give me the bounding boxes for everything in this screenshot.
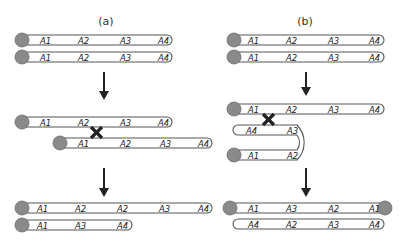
- centromere-icon: [15, 33, 29, 47]
- gene-label: A3: [327, 220, 339, 230]
- arrow-down-icon: [301, 168, 311, 197]
- panel-b-step2-chromosome1: A1 A2 A3 A4: [227, 102, 384, 116]
- gene-label: A4: [157, 53, 169, 63]
- panel-a-step3-chromosome2: A1 A3 A4: [15, 218, 132, 232]
- gene-label: A4: [368, 105, 380, 115]
- gene-label: A3: [327, 105, 339, 115]
- gene-label: A1: [247, 53, 259, 63]
- arrow-down-icon: [99, 168, 109, 197]
- gene-label: A4: [247, 220, 259, 230]
- panel-a-step3-chromosome1: A1 A2 A2 A3 A4: [15, 201, 212, 215]
- gene-label: A1: [368, 204, 380, 214]
- gene-label: A1: [39, 53, 51, 63]
- gene-label: A2: [77, 53, 89, 63]
- panel-a-step2-chromosome1: A1 A2 A3 A4: [15, 115, 172, 129]
- gene-label: A1: [247, 105, 259, 115]
- gene-label: A3: [119, 118, 131, 128]
- gene-label: A1: [36, 221, 48, 231]
- gene-label: A3: [119, 53, 131, 63]
- gene-label: A3: [286, 126, 298, 136]
- gene-label: A4: [116, 221, 128, 231]
- gene-label: A4: [368, 53, 380, 63]
- centromere-icon: [227, 148, 241, 162]
- panel-b-step3-dicentric-chromosome: A1 A3 A2 A1: [223, 201, 392, 215]
- panel-b-step3-acentric-chromosome: A4 A2 A3 A4: [233, 219, 384, 230]
- gene-label: A3: [159, 139, 171, 149]
- panel-a-step2-chromosome2-shifted: A1 A2 A3 A4: [53, 136, 212, 150]
- gene-label: A3: [285, 204, 297, 214]
- gene-label: A2: [285, 36, 297, 46]
- gene-label: A4: [197, 139, 209, 149]
- gene-label: A2: [77, 118, 89, 128]
- gene-label: A1: [39, 118, 51, 128]
- gene-label: A1: [247, 151, 259, 161]
- panel-b-step1-chromosome2: A1 A2 A3 A4: [227, 50, 384, 64]
- gene-label: A1: [39, 36, 51, 46]
- gene-label: A2: [74, 204, 86, 214]
- gene-label: A4: [157, 36, 169, 46]
- crossover-x-icon: [263, 114, 274, 125]
- gene-label: A3: [119, 36, 131, 46]
- centromere-icon: [227, 102, 241, 116]
- arrow-down-icon: [99, 72, 109, 100]
- centromere-icon: [15, 218, 29, 232]
- centromere-icon: [227, 33, 241, 47]
- gene-label: A2: [285, 220, 297, 230]
- gene-label: A1: [36, 204, 48, 214]
- gene-label: A2: [327, 204, 339, 214]
- panel-b-step2-looped-chromosome: A4 A3 A1 A2: [227, 125, 304, 162]
- centromere-icon: [227, 50, 241, 64]
- panel-a-step1-chromosome2: A1 A2 A3 A4: [15, 50, 172, 64]
- gene-label: A4: [245, 126, 257, 136]
- gene-label: A2: [285, 53, 297, 63]
- chromosome-recombination-diagram: (a) (b) A1 A2 A3 A4 A1 A2 A3 A4 A1 A2 A3…: [0, 0, 405, 247]
- gene-label: A4: [197, 204, 209, 214]
- panel-a-step1-chromosome1: A1 A2 A3 A4: [15, 33, 172, 47]
- centromere-icon: [15, 50, 29, 64]
- gene-label: A1: [247, 36, 259, 46]
- gene-label: A3: [327, 53, 339, 63]
- gene-label: A2: [286, 151, 298, 161]
- gene-label: A1: [247, 204, 259, 214]
- gene-label: A1: [77, 139, 89, 149]
- gene-label: A2: [77, 36, 89, 46]
- gene-label: A3: [74, 221, 86, 231]
- gene-label: A2: [285, 105, 297, 115]
- crossover-x-icon: [91, 127, 102, 138]
- panel-a-title: (a): [98, 15, 113, 28]
- gene-label: A2: [116, 204, 128, 214]
- gene-label: A4: [368, 36, 380, 46]
- gene-label: A4: [368, 220, 380, 230]
- centromere-icon: [15, 201, 29, 215]
- arrow-down-icon: [301, 72, 311, 96]
- centromere-icon: [223, 201, 237, 215]
- centromere-icon: [15, 115, 29, 129]
- gene-label: A4: [157, 118, 169, 128]
- gene-label: A3: [327, 36, 339, 46]
- panel-b-step1-chromosome1: A1 A2 A3 A4: [227, 33, 384, 47]
- panel-b-title: (b): [297, 15, 313, 28]
- gene-label: A3: [158, 204, 170, 214]
- centromere-icon: [53, 136, 67, 150]
- gene-label: A2: [119, 139, 131, 149]
